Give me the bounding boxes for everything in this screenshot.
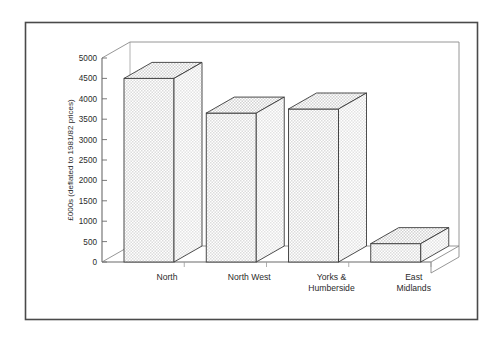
y-tick-label: 500 <box>83 238 97 247</box>
x-category-label: Yorks & <box>317 272 347 282</box>
y-tick-label: 4500 <box>79 74 98 83</box>
chart-figure: 0500100015002000250030003500400045005000… <box>0 0 503 342</box>
bar-side-face <box>256 97 284 262</box>
x-axis-ticks <box>184 262 431 267</box>
bar-series <box>124 62 449 262</box>
bar-1 <box>206 97 284 262</box>
x-category-label: Midlands <box>397 283 431 293</box>
y-axis-ticks: 0500100015002000250030003500400045005000 <box>79 54 107 267</box>
bar-front-face <box>289 109 339 262</box>
x-category-label: East <box>405 272 423 282</box>
y-tick-label: 3500 <box>79 115 98 124</box>
bar-3 <box>371 228 449 262</box>
bar-0 <box>124 62 202 262</box>
y-tick-label: 2000 <box>79 176 98 185</box>
bar-chart-svg: 0500100015002000250030003500400045005000… <box>0 0 503 342</box>
x-category-label: North <box>156 272 177 282</box>
bar-front-face <box>371 244 421 262</box>
x-category-label: Humberside <box>308 283 355 293</box>
bar-2 <box>289 93 367 262</box>
y-tick-label: 5000 <box>79 54 98 63</box>
y-tick-label: 1000 <box>79 217 98 226</box>
y-tick-label: 1500 <box>79 197 98 206</box>
y-tick-label: 0 <box>92 258 97 267</box>
y-tick-label: 4000 <box>79 95 98 104</box>
bar-front-face <box>124 78 174 262</box>
y-axis-title: £000s (deflated to 1981/82 prices) <box>66 99 75 221</box>
bar-side-face <box>174 62 202 262</box>
x-axis-category-labels: NorthNorth WestYorks &HumbersideEastMidl… <box>156 272 430 293</box>
y-tick-label: 3000 <box>79 136 98 145</box>
x-category-label: North West <box>228 272 271 282</box>
bar-side-face <box>339 93 367 262</box>
y-tick-label: 2500 <box>79 156 98 165</box>
bar-front-face <box>206 113 256 262</box>
